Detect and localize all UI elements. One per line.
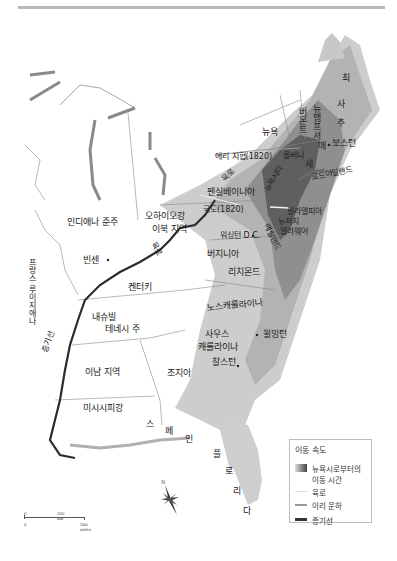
label-national-road: 국도(1820) (203, 206, 244, 214)
maine-north (318, 33, 345, 62)
land-route-swatch-icon (295, 491, 307, 492)
legend-item-travel-time: 뉴욕시로부터의 이동 시간 (295, 463, 366, 485)
label-south-carolina-1: 사우스 (205, 330, 229, 339)
steamboat-swatch-icon (295, 518, 307, 521)
label-delaware: 델라웨어 (280, 228, 308, 236)
legend-label: 이리 운하 (312, 500, 342, 511)
canal-swatch-icon (295, 504, 307, 506)
legend-title: 이동 속도 (295, 444, 366, 455)
label-florida-3: 리 (233, 487, 241, 496)
label-massachusetts-1: 매 (318, 142, 326, 151)
legend-label: 육로 (312, 487, 326, 498)
label-ohio-2: 이북 지역 (152, 225, 187, 234)
label-virginia: 버지니아 (207, 250, 239, 259)
legend-item-erie-canal: 이리 운하 (295, 500, 366, 511)
legend-label: 증기선 (312, 515, 333, 526)
label-tennessee-2: 테네시 주 (105, 325, 140, 334)
scale-tick (84, 517, 85, 520)
compass-star-icon (159, 485, 181, 515)
label-new-jersey: 뉴저지 (278, 218, 299, 226)
scale-mi-zero: 0 (24, 522, 27, 527)
label-massachusetts-3: 추 (337, 119, 345, 128)
label-new-york: 뉴욕 (262, 128, 278, 137)
label-maine: 최 (342, 74, 350, 83)
label-south-carolina-2: 캐롤라이나 (198, 343, 238, 352)
label-richmond: 리치몬드 (228, 268, 260, 277)
label-spain-3: 인 (185, 435, 193, 444)
label-boston: 보스턴 (332, 139, 356, 148)
label-mississippi: 미시시피강 (83, 404, 123, 413)
label-florida-4: 다 (243, 507, 251, 516)
legend-label: 이동 시간 (312, 474, 361, 485)
scale-line (24, 517, 84, 518)
legend-item-land-route: 육로 (295, 487, 366, 498)
label-spain-2: 페 (165, 427, 173, 436)
scale-km-label: 200 km (57, 511, 65, 521)
label-pennsylvania: 펜실베이니아 (207, 188, 255, 197)
compass-north-label: N (161, 479, 165, 485)
label-spain-1: 스 (146, 420, 154, 429)
label-french-louisiana: 프랑스 루이지애나 (27, 258, 35, 325)
label-erie-canal: 에리 지협(1820) (215, 153, 272, 161)
label-philadelphia: 필라델피아 (287, 208, 322, 216)
legend-label: 뉴욕시로부터의 (312, 463, 361, 474)
label-kentucky: 켄터키 (128, 283, 152, 292)
label-charleston: 찰스턴 (212, 358, 236, 367)
lake-michigan-west (90, 120, 100, 200)
label-massachusetts-4: 세 (305, 160, 313, 169)
label-florida-2: 로 (225, 467, 233, 476)
lake-superior-shore (60, 85, 135, 108)
scale-mi-label: 200 miles (80, 522, 91, 532)
label-indiana: 인디애나 준주 (67, 218, 118, 227)
label-tennessee-1: 내슈빌 (92, 313, 116, 322)
label-new-hampshire: 뉴햄프셔 (311, 104, 320, 140)
label-massachusetts-2: 사 (337, 100, 345, 109)
gradient-swatch-icon (295, 464, 307, 472)
label-albany: 올버니 (283, 152, 304, 160)
compass-rose: N (159, 485, 181, 519)
label-illinois-south: 이남 지역 (85, 368, 120, 377)
scale-tick (24, 515, 25, 519)
label-ohio-1: 오하이오강 (145, 212, 185, 221)
legend-item-steamboat: 증기선 (295, 515, 366, 526)
label-vermont: 버몬트 (297, 107, 306, 134)
label-wilmington: 윌밍턴 (263, 330, 287, 339)
gulf-coast (70, 438, 190, 448)
lake-huron-shore (108, 108, 165, 195)
legend: 이동 속도 뉴욕시로부터의 이동 시간 육로 이리 운하 증기선 (289, 439, 372, 523)
label-florida-1: 플 (213, 450, 221, 459)
label-georgia: 조지아 (167, 369, 191, 378)
label-washington: 워싱턴 D.C. (220, 232, 260, 240)
lake-superior (30, 72, 60, 100)
label-vincennes: 빈센 (83, 256, 99, 265)
